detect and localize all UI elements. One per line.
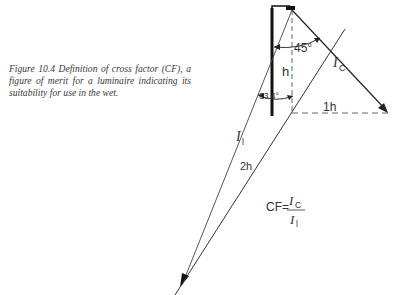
angle-45-label: 45° bbox=[294, 41, 312, 55]
luminaire bbox=[286, 6, 295, 10]
length-2h-label: 2h bbox=[240, 160, 252, 172]
svg-text:l: l bbox=[242, 137, 244, 147]
svg-text:l: l bbox=[296, 219, 298, 229]
cross-factor-formula: CF= I C I l bbox=[266, 193, 305, 229]
svg-text:C: C bbox=[339, 63, 346, 73]
ic-label: I C bbox=[332, 55, 346, 73]
svg-text:C: C bbox=[295, 200, 301, 210]
il-label: I l bbox=[235, 129, 244, 147]
svg-text:I: I bbox=[289, 212, 295, 227]
ic-ray bbox=[292, 10, 386, 110]
cross-factor-diagram: 45° h 63.4° 1h 2h I C I l CF= I C I l bbox=[0, 0, 401, 295]
ic-arrowhead bbox=[378, 103, 388, 113]
svg-text:CF=: CF= bbox=[266, 200, 289, 214]
angle-634-label: 63.4° bbox=[259, 91, 279, 101]
il-ray bbox=[182, 10, 292, 285]
arc-45-arrow-left bbox=[274, 44, 280, 50]
svg-text:I: I bbox=[288, 193, 294, 208]
height-label: h bbox=[282, 64, 289, 79]
svg-text:I: I bbox=[332, 55, 339, 70]
line-2h bbox=[175, 29, 345, 295]
horizontal-1h-label: 1h bbox=[323, 100, 336, 114]
